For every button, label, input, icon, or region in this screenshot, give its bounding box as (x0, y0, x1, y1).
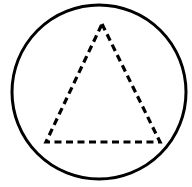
figure-background (0, 0, 192, 187)
geometry-figure-canvas (0, 0, 192, 187)
figure-svg (0, 0, 192, 187)
